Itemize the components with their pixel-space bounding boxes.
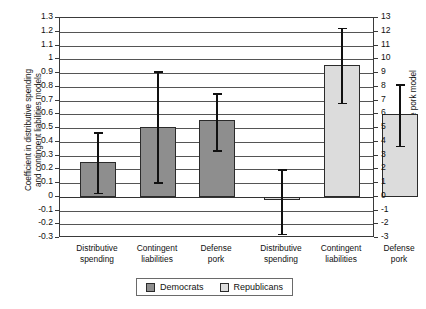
y-axis-right-tick: -1 <box>381 204 411 214</box>
legend-item-democrats: Democrats <box>146 282 204 292</box>
y-axis-left-tickmark <box>55 141 59 142</box>
y-axis-right-tick: 10 <box>381 52 411 62</box>
y-axis-left-tickmark <box>55 168 59 169</box>
chart-legend: Democrats Republicans <box>136 278 293 296</box>
gridline <box>60 32 373 33</box>
y-axis-left-tick: 0.4 <box>13 135 53 145</box>
category-label-line2: spending <box>249 254 313 265</box>
y-axis-left-tick: 0.7 <box>13 94 53 104</box>
y-axis-right-tickmark <box>374 182 378 183</box>
category-label-line1: Defense <box>367 243 426 254</box>
y-axis-right-tick: 12 <box>381 25 411 35</box>
category-label: Defensepork <box>367 243 426 264</box>
y-axis-left-tick: -0.2 <box>13 217 53 227</box>
y-axis-left-tickmark <box>55 237 59 238</box>
error-bar-cap-lower <box>396 146 405 148</box>
y-axis-right-tickmark <box>374 168 378 169</box>
y-axis-right-tick: 5 <box>381 121 411 131</box>
y-axis-left-tickmark <box>55 17 59 18</box>
y-axis-left-tickmark <box>55 196 59 197</box>
y-axis-left-tickmark <box>55 113 59 114</box>
y-axis-right-tick: 1 <box>381 176 411 186</box>
y-axis-left-tickmark <box>55 210 59 211</box>
error-bar-cap-lower <box>154 182 163 184</box>
y-axis-left-tick: 0.2 <box>13 162 53 172</box>
y-axis-right-tickmark <box>374 127 378 128</box>
error-bar <box>341 28 343 103</box>
y-axis-right-tickmark <box>374 45 378 46</box>
y-axis-left-tick: 1.1 <box>13 39 53 49</box>
y-axis-left-tick: 1.3 <box>13 11 53 21</box>
gridline <box>60 197 373 198</box>
y-axis-right-tickmark <box>374 86 378 87</box>
y-axis-left-tickmark <box>55 45 59 46</box>
chart-figure: Coefficient in distributive spending and… <box>0 0 426 309</box>
y-axis-right-tickmark <box>374 237 378 238</box>
gridline <box>60 46 373 47</box>
error-bar-cap-upper <box>154 71 163 73</box>
legend-label-democrats: Democrats <box>160 282 204 292</box>
category-label-line1: Distributive <box>249 243 313 254</box>
error-bar <box>97 132 99 193</box>
category-label-line2: pork <box>367 254 426 265</box>
y-axis-left-tick: 0.6 <box>13 107 53 117</box>
category-label: Distributivespending <box>249 243 313 264</box>
category-label-line2: liabilities <box>309 254 373 265</box>
y-axis-left-tickmark <box>55 100 59 101</box>
category-label-line1: Defense <box>184 243 248 254</box>
category-label-line1: Contingent <box>125 243 189 254</box>
category-label-line2: pork <box>184 254 248 265</box>
y-axis-right-tickmark <box>374 72 378 73</box>
y-axis-left-tickmark <box>55 31 59 32</box>
y-axis-right-tickmark <box>374 223 378 224</box>
y-axis-left-tickmark <box>55 72 59 73</box>
error-bar-cap-lower <box>278 234 287 236</box>
error-bar-cap-upper <box>278 169 287 171</box>
y-axis-right-tick: 8 <box>381 80 411 90</box>
y-axis-left-tick: 0 <box>13 190 53 200</box>
y-axis-left-tickmark <box>55 127 59 128</box>
error-bar-cap-lower <box>94 193 103 195</box>
y-axis-left-tickmark <box>55 155 59 156</box>
y-axis-left-tick: 0.3 <box>13 149 53 159</box>
y-axis-right-tick: 4 <box>381 135 411 145</box>
y-axis-right-tickmark <box>374 58 378 59</box>
error-bar-cap-upper <box>338 28 347 30</box>
y-axis-right-tick: 0 <box>381 190 411 200</box>
y-axis-right-tickmark <box>374 31 378 32</box>
y-axis-right-tick: 9 <box>381 66 411 76</box>
legend-item-republicans: Republicans <box>220 282 284 292</box>
legend-swatch-democrats <box>146 283 155 292</box>
y-axis-left-tick: 0.9 <box>13 66 53 76</box>
y-axis-right-tickmark <box>374 141 378 142</box>
category-label: Contingentliabilities <box>309 243 373 264</box>
gridline <box>60 211 373 212</box>
y-axis-left-tick: -0.3 <box>13 231 53 241</box>
y-axis-left-tick: 1 <box>13 52 53 62</box>
legend-swatch-republicans <box>220 283 229 292</box>
error-bar-cap-lower <box>338 103 347 105</box>
y-axis-right-tick: 13 <box>381 11 411 21</box>
legend-label-republicans: Republicans <box>234 282 284 292</box>
category-label-line2: liabilities <box>125 254 189 265</box>
y-axis-left-tick: 0.5 <box>13 121 53 131</box>
y-axis-right-tickmark <box>374 100 378 101</box>
y-axis-right-tick: 7 <box>381 94 411 104</box>
y-axis-left-tick: 0.8 <box>13 80 53 90</box>
category-label: Contingentliabilities <box>125 243 189 264</box>
y-axis-right-tickmark <box>374 113 378 114</box>
y-axis-left-tick: 0.1 <box>13 176 53 186</box>
y-axis-right-tick: 3 <box>381 149 411 159</box>
error-bar-cap-upper <box>213 93 222 95</box>
category-label-line2: spending <box>65 254 129 265</box>
y-axis-right-tickmark <box>374 155 378 156</box>
y-axis-right-tick: 11 <box>381 39 411 49</box>
y-axis-right-tick: 2 <box>381 162 411 172</box>
y-axis-right-tick: 6 <box>381 107 411 117</box>
category-label: Distributivespending <box>65 243 129 264</box>
error-bar <box>157 71 159 182</box>
y-axis-right-tick: -3 <box>381 231 411 241</box>
y-axis-left-tickmark <box>55 58 59 59</box>
category-label-line1: Distributive <box>65 243 129 254</box>
category-label-line1: Contingent <box>309 243 373 254</box>
